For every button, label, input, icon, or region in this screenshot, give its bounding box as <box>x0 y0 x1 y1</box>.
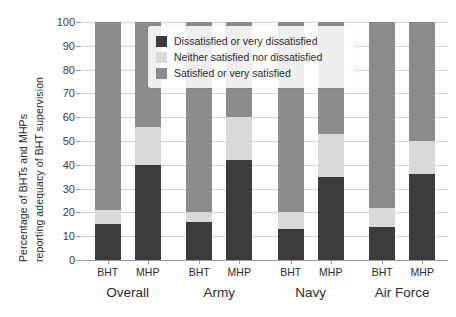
x-tickmark <box>291 260 292 264</box>
bar-group-air-force: BHTMHPAir Force <box>357 22 449 260</box>
x-tick-label-mhp: MHP <box>219 266 259 278</box>
bar-segment-2 <box>369 22 395 208</box>
y-tick-label-30: 30 <box>63 183 75 195</box>
gridline-0 <box>82 260 448 261</box>
y-tickmark-100 <box>76 22 81 23</box>
y-tickmark-70 <box>76 93 81 94</box>
bar-overall-bht[interactable]: BHT <box>95 22 121 260</box>
group-label-navy: Navy <box>265 285 357 300</box>
bar-segment-0 <box>186 222 212 260</box>
bar-segment-1 <box>318 134 344 177</box>
x-tick-label-bht: BHT <box>271 266 311 278</box>
bar-segment-0 <box>278 229 304 260</box>
group-label-army: Army <box>174 285 266 300</box>
bar-segment-1 <box>226 117 252 160</box>
bar-segment-1 <box>135 127 161 165</box>
y-tickmark-80 <box>76 70 81 71</box>
x-tickmark <box>239 260 240 264</box>
x-tickmark <box>199 260 200 264</box>
x-tick-label-mhp: MHP <box>128 266 168 278</box>
y-tickmark-0 <box>76 260 81 261</box>
bar-segment-0 <box>95 224 121 260</box>
bar-segment-1 <box>186 212 212 222</box>
legend-swatch-icon-satisfied <box>156 68 167 79</box>
bar-segment-0 <box>369 227 395 260</box>
bar-segment-0 <box>318 177 344 260</box>
y-tick-label-0: 0 <box>69 254 75 266</box>
bar-segment-1 <box>95 210 121 224</box>
y-tick-label-20: 20 <box>63 206 75 218</box>
y-tick-label-70: 70 <box>63 87 75 99</box>
bar-segment-0 <box>226 160 252 260</box>
legend-item-neither: Neither satisfied nor dissatisfied <box>156 49 346 65</box>
bar-air-force-bht[interactable]: BHT <box>369 22 395 260</box>
y-tickmark-60 <box>76 117 81 118</box>
bar-segment-2 <box>95 22 121 210</box>
legend-label-neither: Neither satisfied nor dissatisfied <box>174 51 322 63</box>
bar-segment-1 <box>369 208 395 227</box>
legend-label-dissatisfied: Dissatisfied or very dissatisfied <box>174 35 318 47</box>
x-tick-label-mhp: MHP <box>311 266 351 278</box>
x-tickmark <box>382 260 383 264</box>
x-tick-label-bht: BHT <box>179 266 219 278</box>
y-tick-label-90: 90 <box>63 40 75 52</box>
y-tickmark-50 <box>76 141 81 142</box>
x-tickmark <box>331 260 332 264</box>
group-label-overall: Overall <box>82 285 174 300</box>
y-tickmark-30 <box>76 189 81 190</box>
group-label-air-force: Air Force <box>357 285 449 300</box>
y-tick-label-50: 50 <box>63 135 75 147</box>
legend-swatch-icon-dissatisfied <box>156 36 167 47</box>
y-axis-title-line-1: Percentage of BHTs and MHPs <box>17 114 29 262</box>
y-tickmark-40 <box>76 165 81 166</box>
y-tickmark-20 <box>76 212 81 213</box>
x-tick-label-bht: BHT <box>88 266 128 278</box>
x-tickmark <box>148 260 149 264</box>
y-tick-label-10: 10 <box>63 230 75 242</box>
x-tickmark <box>108 260 109 264</box>
x-tick-label-mhp: MHP <box>402 266 442 278</box>
y-tickmark-90 <box>76 46 81 47</box>
legend-swatch-icon-neither <box>156 52 167 63</box>
y-tick-label-40: 40 <box>63 159 75 171</box>
legend-item-satisfied: Satisfied or very satisfied <box>156 65 346 81</box>
legend-item-dissatisfied: Dissatisfied or very dissatisfied <box>156 33 346 49</box>
bar-air-force-mhp[interactable]: MHP <box>409 22 435 260</box>
y-tick-label-100: 100 <box>57 16 75 28</box>
x-tick-label-bht: BHT <box>362 266 402 278</box>
bar-segment-2 <box>409 22 435 141</box>
bar-segment-0 <box>409 174 435 260</box>
y-tickmark-10 <box>76 236 81 237</box>
x-tickmark <box>422 260 423 264</box>
bar-segment-1 <box>409 141 435 174</box>
bar-segment-0 <box>135 165 161 260</box>
y-axis-title-line-2: reporting adequacy of BHT supervision <box>33 77 45 262</box>
y-axis-title: Percentage of BHTs and MHPs reporting ad… <box>0 0 62 280</box>
chart-legend: Dissatisfied or very dissatisfied Neithe… <box>148 26 355 88</box>
y-tick-label-60: 60 <box>63 111 75 123</box>
stacked-bar-chart: Percentage of BHTs and MHPs reporting ad… <box>0 0 456 317</box>
legend-label-satisfied: Satisfied or very satisfied <box>174 67 291 79</box>
bar-segment-1 <box>278 212 304 229</box>
y-tick-label-80: 80 <box>63 64 75 76</box>
